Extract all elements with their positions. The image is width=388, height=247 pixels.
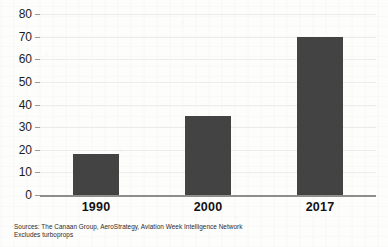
y-axis-tick-mark <box>35 150 40 151</box>
y-axis-tick-mark <box>35 195 40 196</box>
x-axis-baseline <box>40 195 376 197</box>
y-axis-tick-label: 80 <box>0 9 32 19</box>
y-axis-tick-label: 40 <box>0 100 32 110</box>
y-axis-tick-label: 30 <box>0 122 32 132</box>
y-axis-tick-label: 60 <box>0 54 32 64</box>
y-axis-tick-mark <box>35 37 40 38</box>
y-axis-tick-label: 20 <box>0 145 32 155</box>
y-axis-tick-mark <box>35 127 40 128</box>
source-caption: Sources: The Canaan Group, AeroStrategy,… <box>14 223 243 240</box>
bar-2000 <box>185 116 231 195</box>
y-axis-tick-label: 10 <box>0 167 32 177</box>
y-axis-tick-label: 0 <box>0 190 32 200</box>
caption-line-note: Excludes turboprops <box>14 231 243 239</box>
bar-1990 <box>73 154 119 195</box>
caption-line-sources: Sources: The Canaan Group, AeroStrategy,… <box>14 223 243 231</box>
bar-series <box>40 14 376 195</box>
y-axis-tick-label: 50 <box>0 77 32 87</box>
y-axis-tick-mark <box>35 14 40 15</box>
y-axis-tick-label: 70 <box>0 32 32 42</box>
y-axis-tick-mark <box>35 172 40 173</box>
bar-2017 <box>297 37 343 195</box>
y-axis-tick-mark <box>35 105 40 106</box>
x-axis-label-2000: 2000 <box>168 200 248 214</box>
y-axis-tick-mark <box>35 82 40 83</box>
x-axis-label-2017: 2017 <box>280 200 360 214</box>
chart-page: 199020002017 Sources: The Canaan Group, … <box>0 0 388 247</box>
y-axis-tick-mark <box>35 59 40 60</box>
x-axis-label-1990: 1990 <box>56 200 136 214</box>
